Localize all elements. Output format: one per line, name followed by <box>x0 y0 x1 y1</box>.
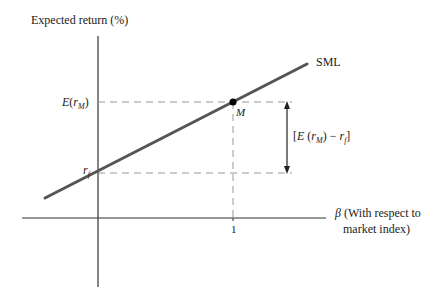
rf-sub: f <box>88 170 90 179</box>
erm-paren-close: ) <box>85 95 89 109</box>
point-m-label: M <box>236 107 245 118</box>
premium-sub-m: M <box>316 136 323 145</box>
market-point-m <box>230 99 237 106</box>
sml-label: SML <box>316 56 341 68</box>
x-axis-label-line2: market index) <box>343 223 410 235</box>
x-axis-text-1: (With respect to <box>341 206 421 220</box>
premium-bracket-close: ] <box>346 129 350 143</box>
premium-minus: ) − <box>323 129 340 143</box>
premium-label: [E (rM) − rf] <box>293 130 350 145</box>
y-axis-label: Expected return (%) <box>31 14 128 26</box>
x-axis-label-line1: β (With respect to <box>335 207 421 219</box>
sml-diagram <box>0 0 435 302</box>
x-tick-label-1: 1 <box>231 224 237 235</box>
erm-sub: M <box>78 102 85 111</box>
erm-label: E(rM) <box>62 96 89 111</box>
rf-label: rf <box>83 164 90 179</box>
